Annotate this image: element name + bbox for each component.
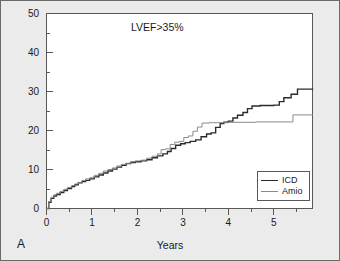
figure-panel: 01020304050 012345 LVEF>35% Years A ICD …: [0, 0, 340, 261]
panel-label: A: [17, 237, 25, 251]
x-axis-title: Years: [1, 239, 339, 251]
y-tick-label: 40: [9, 48, 39, 58]
legend-label-amio: Amio: [282, 187, 303, 196]
y-tick-label: 10: [9, 165, 39, 175]
x-tick-label: 5: [259, 218, 289, 228]
x-tick-label: 4: [213, 218, 243, 228]
legend-label-icd: ICD: [282, 176, 298, 185]
x-tick-label: 0: [32, 218, 62, 228]
figure-inner: 01020304050 012345 LVEF>35% Years A ICD …: [1, 1, 339, 260]
y-tick-label: 30: [9, 87, 39, 97]
y-tick-label: 0: [9, 204, 39, 214]
legend-line-icd: [261, 180, 278, 181]
y-tick-label: 20: [9, 126, 39, 136]
chart-title: LVEF>35%: [131, 21, 184, 33]
x-tick-label: 1: [77, 218, 107, 228]
legend-item-icd: ICD: [261, 175, 305, 186]
x-tick-label: 3: [168, 218, 198, 228]
x-tick-label: 2: [122, 218, 152, 228]
y-tick-label: 50: [9, 9, 39, 19]
legend-item-amio: Amio: [261, 186, 305, 197]
legend-line-amio: [261, 191, 278, 192]
legend-box: ICD Amio: [257, 171, 310, 201]
